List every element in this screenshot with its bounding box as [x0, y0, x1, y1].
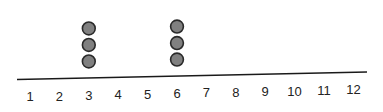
data-dot-3 [82, 22, 95, 35]
tick-label-1: 1 [26, 89, 33, 104]
data-dot-6 [171, 20, 184, 33]
tick-label-5: 5 [144, 87, 151, 102]
data-dot-6 [171, 37, 184, 50]
tick-labels: 123456789101112 [26, 82, 360, 104]
data-dot-3 [82, 39, 95, 52]
tick-label-8: 8 [232, 85, 239, 100]
tick-label-12: 12 [346, 82, 360, 97]
number-line [17, 72, 367, 80]
tick-label-2: 2 [56, 89, 63, 104]
tick-label-6: 6 [173, 86, 180, 101]
tick-label-9: 9 [262, 84, 269, 99]
tick-label-3: 3 [85, 88, 92, 103]
tick-label-7: 7 [203, 85, 210, 100]
data-dot-6 [171, 53, 184, 66]
dot-plot: 123456789101112 [0, 0, 383, 112]
tick-label-10: 10 [287, 84, 301, 99]
tick-label-11: 11 [317, 83, 331, 98]
dots [82, 20, 183, 68]
data-dot-3 [82, 55, 95, 68]
tick-label-4: 4 [115, 87, 122, 102]
